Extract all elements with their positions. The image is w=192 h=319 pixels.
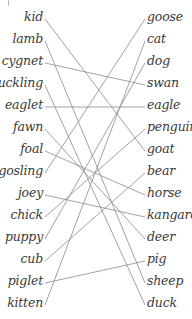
right-item-penguin[interactable]: penguin	[147, 121, 192, 134]
connection-joey-kangaroo	[45, 195, 145, 217]
left-item-duckling[interactable]: duckling	[0, 77, 43, 90]
right-item-kangaroo[interactable]: kangaroo	[147, 209, 192, 222]
left-item-chick[interactable]: chick	[10, 209, 43, 222]
right-item-goose[interactable]: goose	[147, 11, 183, 24]
left-item-piglet[interactable]: piglet	[8, 275, 43, 288]
right-item-pig[interactable]: pig	[147, 253, 166, 266]
left-item-foal[interactable]: foal	[20, 143, 43, 156]
left-item-kitten[interactable]: kitten	[7, 297, 43, 310]
left-item-eaglet[interactable]: eaglet	[5, 99, 43, 112]
connection-gosling-goose	[45, 19, 145, 173]
left-item-gosling[interactable]: gosling	[0, 165, 43, 178]
right-item-bear[interactable]: bear	[147, 165, 175, 178]
connection-kitten-cat	[45, 41, 145, 305]
right-item-dog[interactable]: dog	[147, 55, 170, 68]
connection-kid-goat	[45, 19, 145, 151]
right-item-swan[interactable]: swan	[147, 77, 179, 90]
right-item-goat[interactable]: goat	[147, 143, 174, 156]
left-item-cygnet[interactable]: cygnet	[2, 55, 43, 68]
left-item-kid[interactable]: kid	[24, 11, 43, 24]
left-item-fawn[interactable]: fawn	[13, 121, 43, 134]
right-item-horse[interactable]: horse	[147, 187, 181, 200]
connection-lamb-sheep	[45, 41, 145, 283]
connection-lines	[0, 0, 192, 319]
right-item-cat[interactable]: cat	[147, 33, 166, 46]
connection-puppy-dog	[45, 63, 145, 239]
right-item-sheep[interactable]: sheep	[147, 275, 183, 288]
connection-fawn-deer	[45, 129, 145, 239]
left-item-lamb[interactable]: lamb	[12, 33, 43, 46]
connection-cub-bear	[45, 173, 145, 261]
left-item-puppy[interactable]: puppy	[5, 231, 43, 244]
left-item-joey[interactable]: joey	[18, 187, 43, 200]
right-item-deer[interactable]: deer	[147, 231, 175, 244]
right-item-duck[interactable]: duck	[147, 297, 177, 310]
left-item-cub[interactable]: cub	[21, 253, 43, 266]
right-item-eagle[interactable]: eagle	[147, 99, 180, 112]
